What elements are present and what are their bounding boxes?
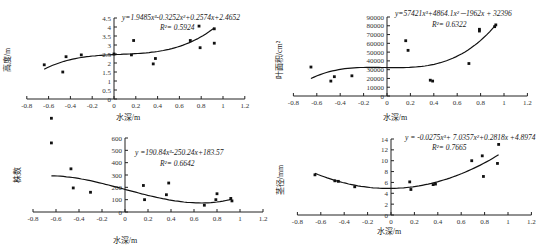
y-tick-label: 12 — [381, 146, 389, 154]
x-tick-label: 0.8 — [197, 102, 206, 110]
data-point — [231, 200, 234, 203]
fit-equation: y = -0.0275x³+ 7.0357x²+0.2818x +4.8974 — [404, 133, 536, 142]
x-tick-label: 0.2 — [410, 218, 419, 226]
x-tick-label: 0 — [385, 99, 389, 107]
x-tick-label: 0.4 — [167, 215, 176, 223]
data-point — [214, 198, 217, 201]
data-point — [189, 39, 192, 42]
y-tick-label: 0.5 — [102, 87, 111, 95]
x-axis-label: 水深/m — [377, 226, 402, 236]
x-tick-label: 0 — [389, 218, 393, 226]
x-tick-label: -0.8 — [27, 215, 39, 223]
x-tick-label: 1 — [221, 102, 225, 110]
x-tick-label: -0.6 — [50, 215, 62, 223]
y-tick-label: 1.5 — [102, 69, 111, 77]
fit-equation: y =190.84x³-250.24x+183.57 — [134, 148, 224, 157]
y-tick-label: 40000 — [367, 57, 385, 65]
y-axis-label: 茎径/mm — [275, 164, 285, 195]
y-tick-label: 4 — [108, 24, 112, 32]
data-point — [198, 25, 201, 28]
x-tick-label: 1 — [238, 215, 242, 223]
y-tick-label: 20000 — [367, 75, 385, 83]
data-point — [165, 193, 168, 196]
y-tick-label: 0 — [108, 96, 112, 104]
x-tick-label: 1 — [502, 99, 506, 107]
data-point — [213, 42, 216, 45]
data-point — [199, 46, 202, 49]
y-axis-label: 叶面积/cm² — [274, 40, 284, 79]
y-axis-label: 株数 — [12, 167, 22, 183]
y-tick-label: 6 — [385, 179, 389, 187]
data-point — [50, 117, 53, 120]
data-point — [65, 55, 68, 58]
y-tick-label: 100 — [112, 196, 123, 204]
x-tick-label: -0.8 — [21, 102, 33, 110]
x-tick-label: 1 — [506, 218, 510, 226]
data-point — [130, 54, 133, 57]
data-point — [216, 192, 219, 195]
x-axis-label: 水深/m — [113, 235, 138, 245]
x-tick-label: 0.4 — [153, 102, 162, 110]
x-tick-label: 0 — [123, 215, 127, 223]
x-tick-label: -0.4 — [339, 218, 351, 226]
x-tick-label: 0.8 — [213, 215, 222, 223]
x-tick-label: 0.6 — [453, 99, 462, 107]
x-tick-label: -0.2 — [96, 215, 108, 223]
data-point — [478, 30, 481, 33]
x-tick-label: 1.2 — [527, 218, 536, 226]
trend-line — [311, 25, 496, 79]
x-tick-label: 0.2 — [131, 102, 140, 110]
x-tick-label: 0.8 — [480, 218, 489, 226]
y-tick-label: 8 — [385, 168, 389, 176]
x-tick-label: -0.2 — [87, 102, 99, 110]
x-tick-label: 0.2 — [406, 99, 415, 107]
x-axis-label: 水深/m — [383, 112, 408, 122]
data-point — [43, 63, 46, 66]
data-point — [61, 71, 64, 74]
chart-panel-leaf-area: -0.8-0.6-0.4-0.200.20.40.60.811.20100002… — [274, 9, 532, 122]
data-point — [431, 80, 434, 83]
data-point — [113, 53, 116, 56]
y-tick-label: 80000 — [367, 22, 385, 30]
trend-line — [44, 28, 214, 69]
fit-equation: y=1.9485x³-0.3252x²+0.2574x+2.4652 — [121, 13, 240, 22]
x-tick-label: 0.8 — [476, 99, 485, 107]
data-point — [353, 185, 356, 188]
data-point — [333, 179, 336, 182]
y-tick-label: 400 — [112, 159, 123, 167]
r-squared: R²= 0.6642 — [159, 159, 195, 168]
x-tick-label: -0.4 — [73, 215, 85, 223]
x-tick-label: 0.4 — [429, 99, 438, 107]
x-tick-label: 0.2 — [144, 215, 153, 223]
data-point — [229, 197, 232, 200]
data-point — [152, 63, 155, 66]
y-tick-label: 600 — [112, 135, 123, 143]
y-tick-label: 3 — [108, 42, 112, 50]
data-point — [404, 39, 407, 42]
x-tick-label: -0.6 — [311, 99, 323, 107]
data-point — [470, 159, 473, 162]
y-tick-label: 500 — [112, 147, 123, 155]
y-tick-label: 0 — [381, 93, 385, 101]
data-point — [434, 183, 437, 186]
y-tick-label: 4.5 — [102, 15, 111, 23]
y-tick-label: 0 — [385, 212, 389, 220]
data-point — [50, 142, 53, 145]
y-tick-label: 10 — [381, 157, 389, 165]
y-tick-label: 90000 — [367, 14, 385, 22]
x-tick-label: 1.2 — [259, 215, 268, 223]
data-point — [329, 80, 332, 83]
data-point — [408, 180, 411, 183]
x-tick-label: 0.6 — [457, 218, 466, 226]
x-axis-label: 水深/m — [116, 112, 141, 122]
data-point — [72, 187, 75, 190]
y-axis-label: 高度/m — [2, 47, 12, 72]
x-tick-label: -0.6 — [315, 218, 327, 226]
data-point — [70, 167, 73, 170]
data-point — [409, 188, 412, 191]
x-tick-label: -0.2 — [362, 218, 374, 226]
x-tick-label: 0.6 — [175, 102, 184, 110]
data-point — [310, 66, 313, 69]
y-tick-label: 70000 — [367, 31, 385, 39]
chart-panel-plant-count: -0.8-0.6-0.4-0.200.20.40.60.811.20100200… — [12, 117, 268, 245]
